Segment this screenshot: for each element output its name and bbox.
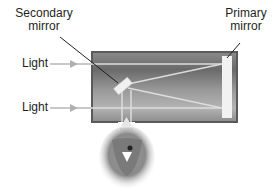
secondary-mirror-label: Secondary mirror [4,7,84,33]
primary-mirror-label: Primary mirror [216,7,275,33]
label-line: mirror [4,20,84,33]
light-label-top: Light [22,57,48,70]
light-arrow-bottom [50,104,92,112]
primary-mirror [222,56,232,118]
light-label-bottom: Light [22,101,48,114]
light-arrow-top [50,60,92,68]
telescope-tube [92,52,237,122]
label-line: mirror [216,20,275,33]
eye-icon [99,126,155,190]
